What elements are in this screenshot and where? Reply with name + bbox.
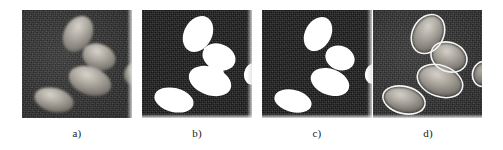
scan-edge-artifact <box>247 10 252 118</box>
separated-blob <box>272 86 314 117</box>
panel-d-contour-overlay <box>373 10 482 118</box>
panel-c-separated-mask <box>262 10 372 118</box>
panel-d-cells-and-contours-layer <box>373 10 482 118</box>
panel-b-binary-mask <box>142 10 252 118</box>
scan-edge-artifact <box>367 10 372 118</box>
scan-bottom-artifact <box>373 114 482 118</box>
panel-b-caption: b) <box>142 126 252 140</box>
mask-merge-bridge <box>208 66 224 73</box>
scan-edge-artifact <box>127 10 132 118</box>
panel-a-caption: a) <box>22 126 132 140</box>
cell-shape-partial <box>472 62 482 87</box>
panel-a-original-image <box>22 10 132 118</box>
cell-shape <box>32 84 77 117</box>
panel-c-blobs-layer <box>262 10 372 118</box>
scan-bottom-artifact <box>142 114 252 118</box>
scan-bottom-artifact <box>262 114 372 118</box>
figure-root: a) b) <box>0 0 503 150</box>
panel-a-cells-layer <box>22 10 132 118</box>
panel-d-caption: d) <box>373 126 483 140</box>
panel-c-caption: c) <box>262 126 372 140</box>
panel-b-blobs-layer <box>142 10 252 118</box>
mask-blob <box>152 84 197 117</box>
